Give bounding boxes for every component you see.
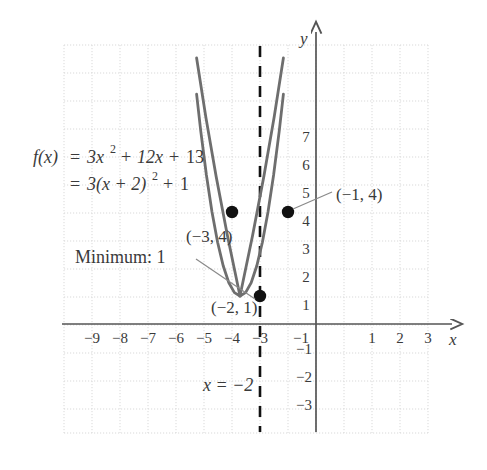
point-marker-left xyxy=(226,206,238,218)
label-point-right: (−1, 4) xyxy=(336,185,382,204)
leader-line-right-point xyxy=(293,192,332,209)
x-tick--5: −5 xyxy=(196,330,212,346)
point-marker-right xyxy=(282,206,294,218)
term3: 13 xyxy=(186,147,204,167)
x-tick--4: −4 xyxy=(224,330,240,346)
equals-token-2: = xyxy=(70,174,80,194)
line2-plus: + xyxy=(163,174,173,194)
x-tick-1: 1 xyxy=(368,330,376,346)
y-tick-6: 6 xyxy=(302,157,310,173)
parabola-curve-smooth-right xyxy=(240,58,283,296)
fx-token: f(x) xyxy=(33,147,58,168)
y-tick-3: 3 xyxy=(302,241,310,257)
y-tick-1: 1 xyxy=(302,297,310,313)
term1-base: 3x xyxy=(86,147,104,167)
y-tick-labels: 7 6 5 4 3 2 1 −1 −2 −3 xyxy=(296,129,312,413)
x-tick--7: −7 xyxy=(140,330,156,346)
term2: 12x xyxy=(137,147,163,167)
x-tick--9: −9 xyxy=(84,330,100,346)
y-tick-5: 5 xyxy=(302,185,310,201)
y-tick-2: 2 xyxy=(302,269,310,285)
function-label-line1: f(x) = 3x 2 + 12x + 13 xyxy=(33,142,204,168)
equals-token-1: = xyxy=(70,147,80,167)
parabola-curve-smooth-left xyxy=(197,58,240,296)
x-tick--8: −8 xyxy=(112,330,128,346)
y-tick--1: −1 xyxy=(296,341,312,357)
aos-x: x = −2 xyxy=(202,375,253,395)
parabola-figure: x y −9 −8 −7 −6 −5 −4 −3 −1 1 2 3 7 6 5 … xyxy=(0,0,487,470)
label-point-left: (−3, 4) xyxy=(186,227,232,246)
plus-token-1: + xyxy=(121,147,131,167)
parabola-curve xyxy=(197,94,284,296)
term1-exponent: 2 xyxy=(110,142,116,156)
x-axis-label: x xyxy=(448,330,457,349)
y-tick--3: −3 xyxy=(296,397,312,413)
label-axis-of-symmetry: x = −2 xyxy=(202,375,253,395)
graph-canvas: x y −9 −8 −7 −6 −5 −4 −3 −1 1 2 3 7 6 5 … xyxy=(0,0,487,470)
label-minimum: Minimum: 1 xyxy=(75,247,166,267)
y-tick--2: −2 xyxy=(296,369,312,385)
line2-exponent: 2 xyxy=(152,169,158,183)
x-tick-3: 3 xyxy=(424,330,432,346)
x-tick--6: −6 xyxy=(168,330,184,346)
y-tick-7: 7 xyxy=(302,129,310,145)
label-vertex: (−2, 1) xyxy=(211,298,257,317)
line2-const: 1 xyxy=(180,174,189,194)
x-tick-2: 2 xyxy=(396,330,404,346)
y-axis-label: y xyxy=(298,29,308,48)
line2-base: 3(x + 2) xyxy=(86,174,146,195)
plus-token-2: + xyxy=(169,147,179,167)
function-label-line2: = 3(x + 2) 2 + 1 xyxy=(70,169,189,195)
y-tick-4: 4 xyxy=(302,213,310,229)
x-tick-labels: −9 −8 −7 −6 −5 −4 −3 −1 1 2 3 xyxy=(84,330,432,346)
